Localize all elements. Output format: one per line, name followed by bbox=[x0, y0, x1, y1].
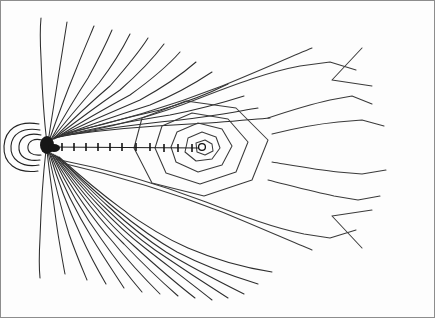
vertex-features bbox=[332, 48, 372, 248]
figure-container bbox=[0, 0, 435, 318]
field-diagram bbox=[0, 0, 435, 318]
radiating-lines-lower bbox=[39, 150, 272, 300]
axis-segment bbox=[47, 143, 202, 152]
secondary-focus-marker bbox=[199, 144, 206, 151]
outer-contours bbox=[60, 48, 386, 250]
primary-node-marker bbox=[40, 136, 60, 154]
node-nested-contours bbox=[4, 123, 42, 171]
